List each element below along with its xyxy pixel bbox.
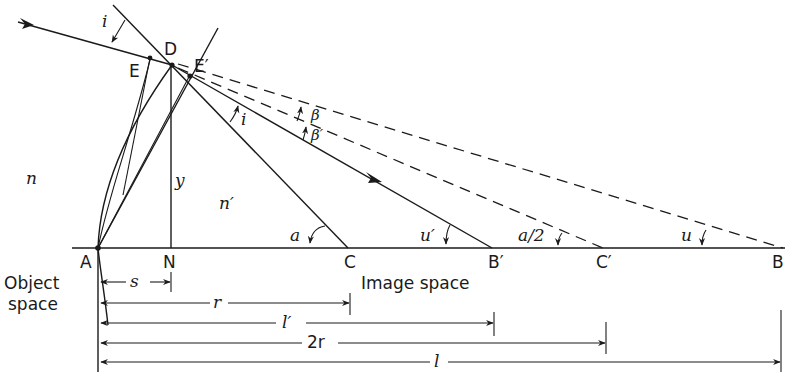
angle-u-prime-arc: [446, 225, 450, 244]
angle-beta-prime-arc: [303, 127, 306, 140]
point-E: [148, 56, 153, 61]
refraction-diagram: A N C B′ C′ B D E E′ n n′ i i β β′ a u′ …: [0, 0, 788, 386]
label-B: B: [772, 252, 784, 272]
label-B-prime: B′: [488, 252, 504, 272]
label-angle-i-refracted: i: [241, 109, 246, 129]
label-angle-i-incident: i: [102, 11, 107, 31]
label-l-prime: l′: [282, 312, 291, 332]
label-A: A: [80, 252, 92, 272]
angle-i-refracted-arc: [230, 106, 238, 122]
refracting-surface-arc: [98, 65, 172, 248]
label-C-prime: C′: [596, 252, 612, 272]
angle-i-incident-arc: [112, 20, 125, 42]
angle-a-half-arc: [558, 233, 562, 245]
surface-arc-tail: [98, 248, 108, 325]
line-E-prime-to-A: [98, 75, 190, 248]
angle-a-arc: [310, 226, 325, 243]
label-n-prime: n′: [219, 193, 234, 213]
label-angle-beta: β: [310, 106, 320, 124]
refracted-ray: [172, 65, 492, 248]
label-angle-beta-prime: β′: [310, 126, 324, 144]
label-object-space-2: space: [8, 294, 58, 314]
dashed-line-to-C-prime: [178, 68, 603, 248]
point-E-prime: [187, 73, 192, 78]
label-E-prime: E′: [194, 56, 209, 76]
label-l: l: [434, 351, 439, 371]
label-N: N: [163, 252, 176, 272]
label-s: s: [130, 271, 139, 291]
label-E: E: [129, 61, 140, 81]
label-angle-u-prime: u′: [420, 225, 435, 245]
label-r: r: [213, 292, 222, 312]
label-image-space: Image space: [361, 273, 470, 293]
label-C: C: [344, 252, 356, 272]
point-D: [169, 62, 174, 67]
label-D: D: [164, 39, 177, 59]
label-n: n: [26, 168, 37, 188]
label-angle-u: u: [681, 225, 692, 245]
angle-u-arc: [702, 230, 706, 245]
label-angle-a-half: a/2: [518, 225, 545, 245]
label-angle-a: a: [290, 225, 300, 245]
label-object-space-1: Object: [4, 273, 60, 293]
inner-arc: [98, 60, 150, 248]
label-y: y: [174, 170, 185, 190]
point-A: [95, 245, 101, 251]
label-2r: 2r: [307, 332, 325, 352]
dashed-line-to-B: [178, 64, 783, 248]
